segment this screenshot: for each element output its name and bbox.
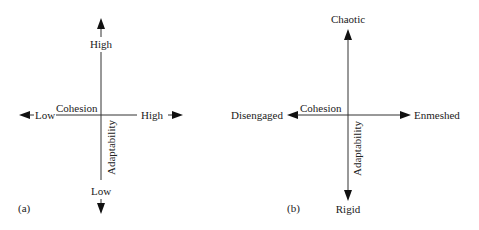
panel-a: High Low Low High Cohesion Adaptability …	[18, 18, 183, 215]
arrow-left-icon	[287, 111, 298, 119]
vertical-bottom-label: Rigid	[336, 203, 361, 215]
arrow-left-icon	[19, 111, 30, 119]
vertical-axis-name: Adaptability	[105, 120, 117, 175]
diagram-canvas: High Low Low High Cohesion Adaptability …	[0, 0, 479, 230]
horizontal-left-label: Low	[35, 109, 55, 121]
horizontal-right-label: Enmeshed	[414, 109, 460, 121]
panel-caption: (b)	[287, 202, 300, 215]
arrow-up-icon	[344, 29, 352, 40]
horizontal-left-label: Disengaged	[231, 109, 283, 121]
vertical-bottom-label: Low	[91, 185, 111, 197]
panel-b: Chaotic Rigid Disengaged Enmeshed Cohesi…	[231, 13, 460, 215]
arrow-right-icon	[172, 111, 183, 119]
arrow-down-icon	[344, 190, 352, 201]
vertical-top-label: Chaotic	[331, 13, 365, 25]
horizontal-axis-name: Cohesion	[56, 102, 98, 114]
vertical-top-label: High	[90, 38, 113, 50]
vertical-axis-name: Adaptability	[351, 121, 363, 176]
horizontal-axis-name: Cohesion	[300, 102, 342, 114]
panel-caption: (a)	[18, 202, 31, 215]
arrow-down-icon	[97, 203, 105, 214]
horizontal-right-label: High	[141, 109, 164, 121]
arrow-up-icon	[97, 18, 105, 29]
arrow-right-icon	[400, 111, 411, 119]
